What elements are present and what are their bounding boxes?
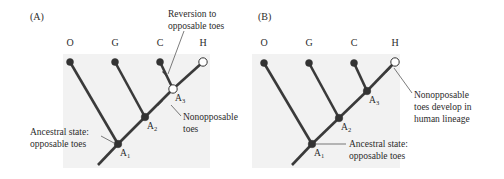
taxon-node-g (112, 59, 119, 66)
annotation-text: Nonopposable (183, 112, 238, 122)
annotation-text: opposable toes (30, 139, 87, 149)
panel-a: (A)OGCHA1A2A3Reversion toopposable toesN… (30, 9, 238, 168)
taxon-label: O (66, 37, 73, 48)
annotation-text: opposable toes (349, 151, 406, 161)
ancestor-node (363, 87, 371, 95)
phylogeny-svg: (A)OGCHA1A2A3Reversion toopposable toesN… (0, 0, 504, 179)
annotation-text: toes develop in (414, 102, 472, 112)
phylogeny-figure: (A)OGCHA1A2A3Reversion toopposable toesN… (0, 0, 504, 179)
annotation-text: Reversion to (168, 9, 217, 19)
taxon-label: H (391, 37, 398, 48)
annotation-text: Ancestral state: (349, 139, 408, 149)
annotation-text: human lineage (414, 114, 470, 124)
ancestor-node (169, 85, 177, 93)
panel-label: (A) (30, 11, 44, 23)
taxon-label: C (157, 37, 164, 48)
annotation-text: Ancestral state: (30, 127, 89, 137)
annotation-text: opposable toes (168, 21, 225, 31)
panel-b: (B)OGCHA1A2A3Nonopposabletoes develop in… (252, 11, 472, 168)
taxon-node-c (157, 59, 164, 66)
ancestor-node (141, 113, 149, 121)
taxon-label: G (111, 37, 118, 48)
annotation-text: toes (183, 124, 199, 134)
taxon-label: G (305, 37, 312, 48)
taxon-node-h (199, 58, 207, 66)
taxon-label: O (260, 37, 267, 48)
taxon-node-g (306, 60, 313, 67)
taxon-node-h (391, 58, 399, 66)
ancestor-node (114, 140, 122, 148)
taxon-node-c (351, 60, 358, 67)
taxon-label: C (351, 37, 358, 48)
ancestor-node (335, 114, 343, 122)
ancestor-node (308, 140, 316, 148)
taxon-node-o (67, 59, 74, 66)
panel-label: (B) (258, 11, 271, 23)
annotation-text: Nonopposable (414, 90, 469, 100)
panel-background (63, 54, 210, 168)
taxon-label: H (199, 37, 206, 48)
taxon-node-o (261, 60, 268, 67)
